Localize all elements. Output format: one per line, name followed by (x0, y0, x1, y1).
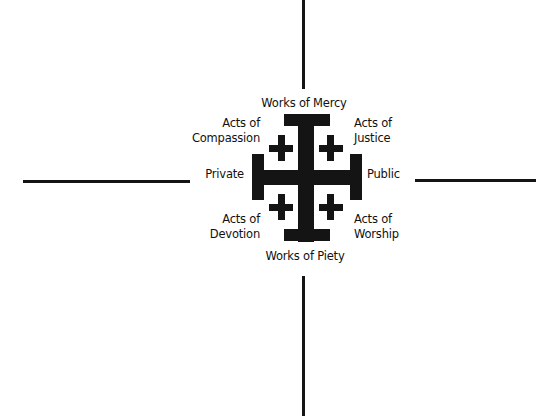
label-works-of-piety: Works of Piety (266, 249, 345, 264)
label-acts-of-devotion: Acts of Devotion (210, 212, 260, 242)
jerusalem-cross-icon (0, 0, 536, 416)
label-works-of-mercy: Works of Mercy (261, 96, 346, 111)
label-acts-of-compassion: Acts of Compassion (192, 116, 260, 146)
label-acts-of-justice: Acts of Justice (354, 116, 392, 146)
label-acts-of-worship: Acts of Worship (354, 212, 399, 242)
label-public: Public (367, 167, 400, 182)
label-private: Private (205, 167, 244, 182)
